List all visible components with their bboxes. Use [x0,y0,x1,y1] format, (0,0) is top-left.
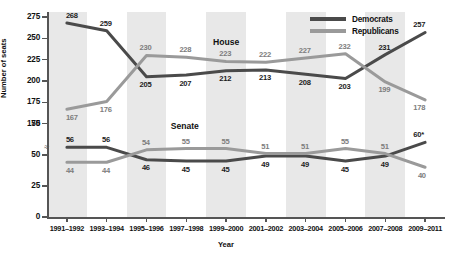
data-label: 176 [100,105,112,114]
group-title-house: House [213,37,239,47]
data-label: 207 [179,79,191,88]
data-label: 55 [182,137,190,146]
data-label: 55 [341,137,349,146]
chart-legend: DemocratsRepublicans [310,13,398,37]
data-label: 231 [378,43,390,52]
legend-label: Republicans [352,27,398,36]
data-label: 223 [219,49,231,58]
group-title-senate: Senate [171,121,199,131]
data-label: 44 [102,166,110,175]
data-label: 55 [222,137,230,146]
data-label: 232 [339,42,351,51]
data-label: 227 [299,46,311,55]
data-label: 51 [261,142,269,151]
data-label: 40 [418,171,426,180]
data-label: 228 [179,45,191,54]
data-label: 213 [259,73,271,82]
data-label: 178 [413,103,425,112]
data-label: 60* [413,130,424,139]
data-label: 259 [100,19,112,28]
data-label: 45 [182,165,190,174]
legend-item: Republicans [310,25,398,37]
data-label: 56 [66,135,74,144]
data-label: 54 [142,138,150,147]
legend-item: Democrats [310,13,398,25]
data-label: 212 [219,74,231,83]
data-label: 199 [378,85,390,94]
legend-label: Democrats [352,15,393,24]
chart-container: 0255075150175200225250275 1991–19921993–… [0,0,452,260]
data-label: 49 [301,160,309,169]
data-label: 45 [341,165,349,174]
data-label: 45 [222,165,230,174]
data-label: 44 [66,166,74,175]
data-label: 208 [299,78,311,87]
data-label: 257 [413,20,425,29]
data-label: 268 [66,11,78,20]
data-label: 51 [301,142,309,151]
data-label: 167 [66,113,78,122]
data-label: 205 [140,80,152,89]
legend-swatch [310,29,346,33]
data-label: 49 [381,160,389,169]
data-label: 49 [261,160,269,169]
data-label: 222 [259,50,271,59]
legend-swatch [310,17,346,21]
data-label: 203 [339,82,351,91]
data-label: 56 [102,135,110,144]
data-label: 46 [142,163,150,172]
data-label: 51 [381,142,389,151]
data-label: 230 [140,43,152,52]
